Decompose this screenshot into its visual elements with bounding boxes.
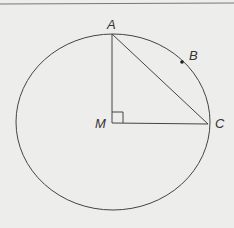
label-a: A — [107, 18, 116, 31]
geometry-diagram — [0, 0, 234, 228]
circle — [16, 34, 210, 210]
top-edge-line — [0, 3, 234, 4]
point-b-dot — [180, 60, 184, 64]
label-c: C — [215, 117, 224, 130]
segment-mc — [112, 123, 208, 124]
label-b: B — [189, 49, 198, 62]
right-angle-marker — [112, 112, 123, 123]
label-m: M — [95, 117, 106, 130]
